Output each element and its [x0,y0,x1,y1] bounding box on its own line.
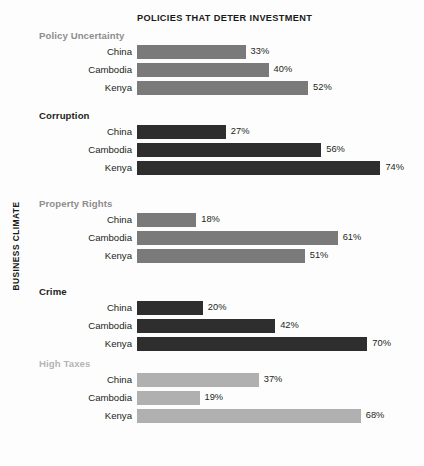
bar-value-label: 37% [264,374,283,384]
bar-row-label: Kenya [12,338,132,349]
bar-row: Kenya74% [0,160,424,178]
bar-value-label: 42% [280,320,299,330]
bar-row-label: Cambodia [12,232,132,243]
bar-value-label: 33% [251,46,270,56]
bar-value-label: 70% [372,338,391,348]
bar [137,125,226,139]
bar-row: Cambodia19% [0,390,424,408]
bar-value-label: 74% [385,162,404,172]
bar-row-label: Cambodia [12,64,132,75]
bar [137,337,367,351]
bar-row-label: China [12,302,132,313]
bar [137,161,380,175]
bar [137,45,246,59]
bar-row-label: Cambodia [12,320,132,331]
bar-value-label: 40% [274,64,293,74]
bar-row: Kenya51% [0,248,424,266]
bar-value-label: 19% [205,392,224,402]
bar-group-title: High Taxes [39,358,90,369]
bar [137,231,338,245]
bar [137,213,196,227]
bar-group-title: Corruption [39,110,90,121]
bar-row-label: Cambodia [12,392,132,403]
bar-row-label: Kenya [12,250,132,261]
bar-group-rows: China27%Cambodia56%Kenya74% [0,124,424,178]
bar-value-label: 52% [313,82,332,92]
bar-row-label: Kenya [12,162,132,173]
chart-container: POLICIES THAT DETER INVESTMENT BUSINESS … [0,0,424,466]
bar-group-rows: China37%Cambodia19%Kenya68% [0,372,424,426]
bar [137,81,308,95]
bar-row-label: China [12,126,132,137]
bar [137,63,269,77]
bar-row: Cambodia56% [0,142,424,160]
bar-row: China33% [0,44,424,62]
bar-row-label: Kenya [12,410,132,421]
bar-group-title: Crime [39,286,67,297]
bar-row: Cambodia61% [0,230,424,248]
bar-row: Cambodia42% [0,318,424,336]
bar-row-label: China [12,214,132,225]
bar-value-label: 27% [231,126,250,136]
bar-value-label: 18% [201,214,220,224]
bar-group-rows: China18%Cambodia61%Kenya51% [0,212,424,266]
bar [137,391,200,405]
bar-value-label: 61% [343,232,362,242]
bar [137,249,305,263]
bar-row: Kenya70% [0,336,424,354]
bar-row: Kenya68% [0,408,424,426]
bar-value-label: 51% [310,250,329,260]
bar [137,373,259,387]
bar-group-rows: China20%Cambodia42%Kenya70% [0,300,424,354]
bar-row: Kenya52% [0,80,424,98]
bar-value-label: 68% [366,410,385,420]
bar-row: China27% [0,124,424,142]
bar-value-label: 56% [326,144,345,154]
bar-group-title: Property Rights [39,198,112,209]
bar-group-rows: China33%Cambodia40%Kenya52% [0,44,424,98]
bar-row-label: Kenya [12,82,132,93]
bar-group-title: Policy Uncertainty [39,30,125,41]
chart-title: POLICIES THAT DETER INVESTMENT [137,13,312,23]
bar-value-label: 20% [208,302,227,312]
bar-row: China18% [0,212,424,230]
bar-row: China37% [0,372,424,390]
bar-row-label: Cambodia [12,144,132,155]
bar-row: Cambodia40% [0,62,424,80]
bar-row-label: China [12,374,132,385]
bar [137,409,361,423]
bar-row: China20% [0,300,424,318]
bar-row-label: China [12,46,132,57]
bar [137,143,321,157]
bar [137,319,275,333]
bar [137,301,203,315]
